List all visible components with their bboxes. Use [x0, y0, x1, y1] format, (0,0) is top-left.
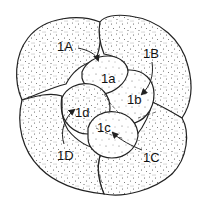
label-1A: 1A	[57, 39, 73, 54]
spiral-cleavage-diagram: 1A 1B 1C 1D 1a 1b 1c 1d	[0, 0, 206, 208]
label-1b: 1b	[127, 92, 141, 107]
micromere-1c	[88, 112, 138, 158]
label-1c: 1c	[97, 120, 111, 135]
label-1a: 1a	[101, 71, 116, 86]
label-1B: 1B	[143, 46, 159, 61]
label-1C: 1C	[143, 150, 160, 165]
label-1d: 1d	[75, 105, 89, 120]
label-1D: 1D	[57, 148, 74, 163]
